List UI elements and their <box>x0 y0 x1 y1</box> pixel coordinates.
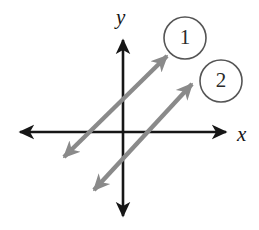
graph-line-1 <box>64 56 167 157</box>
callout-label-1: 1 <box>180 25 191 49</box>
y-axis-label: y <box>114 5 126 29</box>
callout-label-2: 2 <box>216 68 227 92</box>
graph-line-2 <box>94 84 192 190</box>
coordinate-plane-figure: x y 1 2 <box>0 0 259 230</box>
x-axis-label: x <box>236 122 247 146</box>
math-figure-container: x y 1 2 <box>0 0 259 230</box>
